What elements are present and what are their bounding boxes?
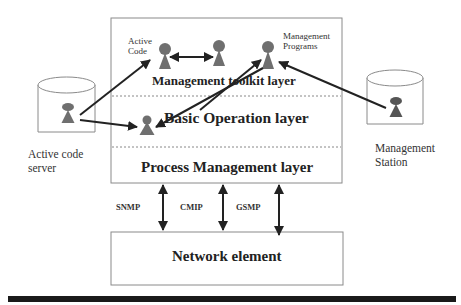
management-station-label-line2: Station xyxy=(375,155,435,169)
active-code-server-label-line1: Active code xyxy=(28,147,83,161)
active-code-label-line1: Active xyxy=(128,36,152,46)
arrow-server-to-basic-operation xyxy=(80,120,137,127)
peer-agent-icon xyxy=(213,40,225,66)
management-programs-agent-icon xyxy=(262,41,274,69)
snmp-label: SNMP xyxy=(116,202,140,212)
network-element-label: Network element xyxy=(172,248,282,265)
layer-basic-operation: Basic Operation layer xyxy=(164,109,309,127)
layer-management-toolkit: Management toolkit layer xyxy=(152,73,296,89)
active-code-server-label-line2: server xyxy=(28,161,83,175)
gsmp-label: GSMP xyxy=(236,202,261,212)
cmip-label: CMIP xyxy=(180,202,203,212)
management-programs-label: Management Programs xyxy=(283,31,330,51)
management-programs-label-line1: Management xyxy=(283,31,330,41)
bottom-rule xyxy=(8,296,456,302)
active-code-server-label: Active code server xyxy=(28,147,83,175)
active-code-label-line2: Code xyxy=(128,46,152,56)
active-code-server-agent-icon xyxy=(62,103,75,123)
layer-process-management: Process Management layer xyxy=(141,159,313,176)
management-station-label-line1: Management xyxy=(375,141,435,155)
active-code-agent-icon xyxy=(159,43,171,69)
basic-operation-agent-icon xyxy=(140,116,155,136)
management-station-agent-icon xyxy=(390,97,403,117)
management-station-label: Management Station xyxy=(375,141,435,169)
active-code-label: Active Code xyxy=(128,36,152,56)
management-programs-label-line2: Programs xyxy=(283,41,330,51)
